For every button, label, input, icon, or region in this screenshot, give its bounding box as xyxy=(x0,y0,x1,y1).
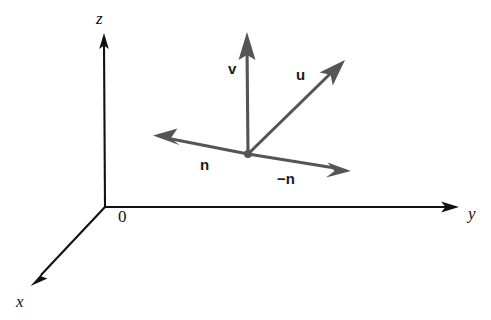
vector-v-shaft xyxy=(247,46,248,154)
y-axis-label: y xyxy=(466,204,476,223)
vector-n-shaft xyxy=(169,139,248,155)
x-axis-arrowhead xyxy=(31,271,48,286)
vector-u-label: u xyxy=(296,66,305,83)
z-axis xyxy=(99,33,109,207)
vector-neg-n-label: −n xyxy=(277,170,295,187)
vector-diagram-figure: 0 z y x xyxy=(0,0,491,320)
x-axis-label: x xyxy=(15,292,24,311)
origin-label: 0 xyxy=(118,207,127,226)
vector-neg-n-shaft xyxy=(248,154,335,168)
vector-v-label: v xyxy=(228,60,237,77)
vector-n-arrowhead xyxy=(153,129,180,146)
x-axis-line xyxy=(41,207,105,275)
vector-n-label: n xyxy=(200,156,209,173)
vector-neg-n xyxy=(248,154,351,178)
vector-neg-n-arrowhead xyxy=(326,163,351,178)
z-axis-line xyxy=(104,44,105,207)
y-axis xyxy=(105,202,459,213)
x-axis xyxy=(31,207,106,286)
vector-v xyxy=(239,32,256,154)
vector-u-shaft xyxy=(248,72,332,154)
diagram-canvas: 0 z y x xyxy=(0,0,491,320)
vector-n xyxy=(153,129,248,154)
vectors-group: v u n −n xyxy=(153,32,351,187)
z-axis-label: z xyxy=(95,9,103,28)
vector-base-point xyxy=(244,150,252,158)
